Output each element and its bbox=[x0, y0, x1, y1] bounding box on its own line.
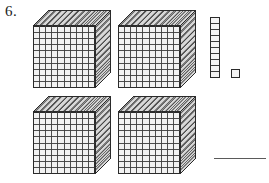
thousand-cube-block bbox=[118, 96, 196, 174]
thousand-cube-block bbox=[33, 96, 111, 174]
thousand-cube-block bbox=[118, 10, 196, 88]
worksheet-problem: 6. bbox=[0, 0, 269, 183]
problem-number: 6. bbox=[5, 4, 17, 19]
answer-line[interactable] bbox=[214, 158, 266, 159]
ten-rod-block bbox=[210, 17, 220, 78]
thousand-cube-block bbox=[33, 10, 111, 88]
unit-cube-block bbox=[231, 69, 240, 78]
